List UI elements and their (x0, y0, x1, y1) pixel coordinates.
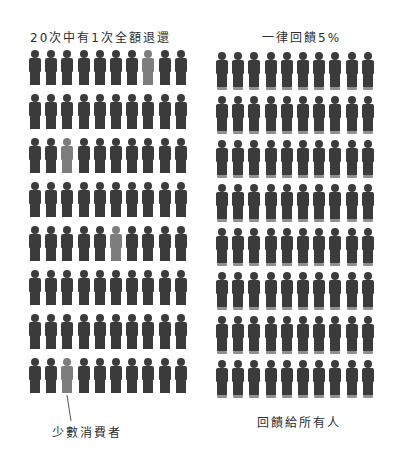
person-icon (297, 228, 309, 266)
person-icon (175, 314, 187, 352)
person-icon (248, 316, 260, 354)
person-icon (248, 184, 260, 222)
person-icon (142, 182, 154, 220)
person-icon (216, 272, 228, 310)
person-icon (346, 52, 358, 90)
person-icon (281, 360, 293, 398)
person-icon (126, 226, 138, 264)
person-icon (248, 140, 260, 178)
right-annotation: 回饋給所有人 (257, 413, 341, 430)
person-icon (265, 272, 277, 310)
person-icon (159, 50, 171, 88)
person-icon (29, 314, 41, 352)
person-icon (313, 52, 325, 90)
person-icon (110, 182, 122, 220)
person-icon (281, 184, 293, 222)
person-icon (142, 138, 154, 176)
person-icon (265, 184, 277, 222)
person-icon (297, 96, 309, 134)
person-icon (110, 50, 122, 88)
person-icon (29, 50, 41, 88)
person-icon (159, 270, 171, 308)
person-icon-highlighted (61, 138, 73, 176)
person-icon (45, 358, 57, 396)
person-icon (175, 270, 187, 308)
person-icon (362, 184, 374, 222)
person-icon (329, 184, 341, 222)
person-icon (313, 184, 325, 222)
person-icon (94, 94, 106, 132)
person-icon (216, 52, 228, 90)
person-icon (78, 270, 90, 308)
person-icon (45, 94, 57, 132)
person-icon (346, 140, 358, 178)
person-icon (110, 358, 122, 396)
left-figure-grid (29, 50, 187, 396)
person-icon (248, 96, 260, 134)
person-icon (346, 360, 358, 398)
person-icon (362, 360, 374, 398)
person-icon (329, 228, 341, 266)
person-icon (142, 314, 154, 352)
person-icon (94, 50, 106, 88)
person-icon (346, 272, 358, 310)
person-icon (216, 228, 228, 266)
person-icon (329, 360, 341, 398)
person-icon (329, 316, 341, 354)
person-icon (232, 52, 244, 90)
person-icon (362, 140, 374, 178)
person-icon (248, 52, 260, 90)
person-icon (175, 138, 187, 176)
person-icon (45, 270, 57, 308)
person-icon (159, 314, 171, 352)
person-icon (45, 314, 57, 352)
person-icon (297, 140, 309, 178)
person-icon (313, 96, 325, 134)
annotation-leader-line (60, 394, 80, 424)
person-icon (175, 182, 187, 220)
person-icon (175, 50, 187, 88)
person-icon (329, 272, 341, 310)
person-icon (346, 228, 358, 266)
person-icon (94, 270, 106, 308)
person-icon (216, 360, 228, 398)
person-icon (94, 138, 106, 176)
person-icon (126, 314, 138, 352)
person-icon (61, 270, 73, 308)
person-icon (126, 94, 138, 132)
person-icon (329, 140, 341, 178)
person-icon (45, 182, 57, 220)
person-icon (175, 358, 187, 396)
person-icon (248, 228, 260, 266)
person-icon-highlighted (142, 50, 154, 88)
person-icon (313, 360, 325, 398)
left-annotation: 少數消費者 (52, 423, 122, 440)
person-icon (232, 316, 244, 354)
person-icon (281, 272, 293, 310)
person-icon (281, 52, 293, 90)
person-icon (61, 94, 73, 132)
person-icon (216, 140, 228, 178)
person-icon (78, 50, 90, 88)
person-icon (346, 184, 358, 222)
person-icon (29, 182, 41, 220)
person-icon (313, 140, 325, 178)
person-icon (61, 314, 73, 352)
person-icon (232, 360, 244, 398)
person-icon (159, 358, 171, 396)
person-icon (216, 316, 228, 354)
person-icon (126, 50, 138, 88)
person-icon (78, 138, 90, 176)
person-icon (362, 228, 374, 266)
person-icon (126, 358, 138, 396)
person-icon (281, 228, 293, 266)
person-icon (232, 228, 244, 266)
right-title: 一律回饋5% (262, 28, 341, 45)
person-icon (297, 52, 309, 90)
person-icon (78, 358, 90, 396)
person-icon (232, 96, 244, 134)
person-icon (110, 138, 122, 176)
person-icon (362, 96, 374, 134)
person-icon (346, 316, 358, 354)
person-icon (159, 94, 171, 132)
